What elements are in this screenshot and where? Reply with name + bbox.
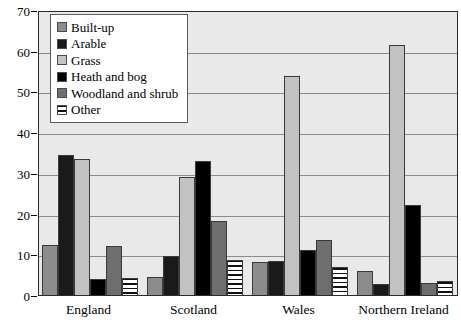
bar-england-arable xyxy=(58,155,74,295)
legend-swatch-icon xyxy=(57,72,67,82)
y-tick-label: 20 xyxy=(2,208,30,221)
y-tick-mark xyxy=(31,255,37,256)
bar-england-heath-and-bog xyxy=(90,279,106,295)
bar-northern-ireland-arable xyxy=(373,284,389,295)
bar-scotland-other xyxy=(227,260,243,295)
y-tick-label: 0 xyxy=(2,290,30,303)
y-tick-label: 70 xyxy=(2,5,30,18)
legend-item-woodland-and-shrub[interactable]: Woodland and shrub xyxy=(57,86,178,100)
legend-item-arable[interactable]: Arable xyxy=(57,37,178,51)
y-tick-label: 10 xyxy=(2,249,30,262)
legend-item-label: Other xyxy=(71,103,101,116)
bar-northern-ireland-heath-and-bog xyxy=(405,205,421,295)
y-tick-mark xyxy=(31,296,37,297)
y-tick-mark xyxy=(31,52,37,53)
bar-wales-grass xyxy=(284,76,300,295)
y-tick-label: 30 xyxy=(2,167,30,180)
bar-scotland-arable xyxy=(163,256,179,295)
bar-england-woodland-and-shrub xyxy=(106,246,122,295)
y-tick-mark xyxy=(31,215,37,216)
y-tick-mark xyxy=(31,133,37,134)
bar-scotland-woodland-and-shrub xyxy=(211,221,227,295)
y-axis: 010203040506070 xyxy=(0,0,30,300)
legend-item-label: Built-up xyxy=(71,21,114,34)
y-tick-label: 60 xyxy=(2,45,30,58)
bar-chart: 010203040506070 EnglandScotlandWalesNort… xyxy=(0,0,461,324)
legend-item-grass[interactable]: Grass xyxy=(57,53,178,67)
legend-item-label: Heath and bog xyxy=(71,70,147,83)
bar-wales-heath-and-bog xyxy=(300,250,316,295)
bar-group-northern-ireland xyxy=(357,12,453,295)
x-tick-label-northern-ireland: Northern Ireland xyxy=(358,302,448,318)
legend-item-label: Grass xyxy=(71,54,101,67)
bar-northern-ireland-woodland-and-shrub xyxy=(421,283,437,295)
x-tick-label-england: England xyxy=(66,302,111,318)
bar-group-wales xyxy=(252,12,348,295)
legend-swatch-icon xyxy=(57,39,67,49)
bar-wales-woodland-and-shrub xyxy=(316,240,332,295)
bar-england-grass xyxy=(74,159,90,295)
bar-northern-ireland-other xyxy=(437,281,453,295)
legend: Built-upArableGrassHeath and bogWoodland… xyxy=(50,14,188,123)
y-tick-mark xyxy=(31,174,37,175)
x-tick-label-scotland: Scotland xyxy=(170,302,217,318)
bar-northern-ireland-grass xyxy=(389,45,405,295)
bar-northern-ireland-built-up xyxy=(357,271,373,295)
legend-item-other[interactable]: Other xyxy=(57,103,178,117)
bar-scotland-built-up xyxy=(147,277,163,295)
bar-wales-arable xyxy=(268,261,284,295)
bar-england-built-up xyxy=(42,245,58,295)
y-tick-label: 50 xyxy=(2,86,30,99)
bar-scotland-heath-and-bog xyxy=(195,161,211,295)
y-tick-mark xyxy=(31,11,37,12)
legend-item-built-up[interactable]: Built-up xyxy=(57,20,178,34)
legend-item-heath-and-bog[interactable]: Heath and bog xyxy=(57,70,178,84)
y-tick-label: 40 xyxy=(2,127,30,140)
bar-wales-other xyxy=(332,267,348,296)
y-tick-mark xyxy=(31,92,37,93)
legend-swatch-icon xyxy=(57,88,67,98)
bar-england-other xyxy=(122,278,138,296)
legend-item-label: Arable xyxy=(71,37,106,50)
x-axis: EnglandScotlandWalesNorthern Ireland xyxy=(38,299,458,324)
x-tick-label-wales: Wales xyxy=(282,302,315,318)
legend-item-label: Woodland and shrub xyxy=(71,87,178,100)
legend-swatch-icon xyxy=(57,22,67,32)
legend-swatch-icon xyxy=(57,105,67,115)
bar-wales-built-up xyxy=(252,262,268,295)
legend-swatch-icon xyxy=(57,55,67,65)
bar-scotland-grass xyxy=(179,177,195,295)
